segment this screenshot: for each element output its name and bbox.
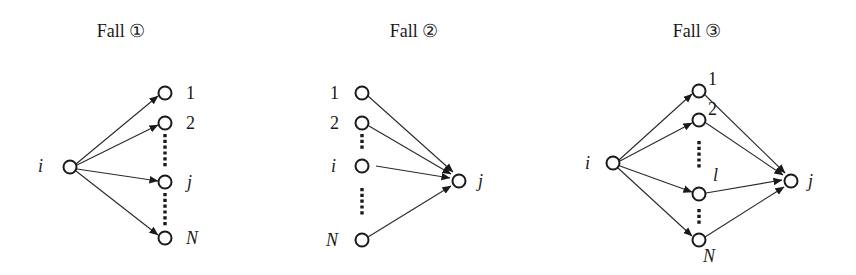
- edges-case-2: [368, 96, 453, 237]
- node-1: [693, 85, 706, 98]
- node-1: [356, 87, 369, 100]
- label-i: i: [585, 153, 590, 173]
- label-N: N: [185, 228, 199, 248]
- network-flow-figure: Fall ① i 1 2 j N Fall ②: [0, 0, 856, 275]
- label-i: i: [331, 156, 336, 176]
- label-2: 2: [186, 113, 195, 133]
- node-1: [159, 87, 172, 100]
- panel-case-2: Fall ② 1 2 i N j: [325, 21, 483, 250]
- node-2: [159, 117, 172, 130]
- panel-case-1: Fall ① i 1 2 j N: [38, 21, 199, 248]
- label-1: 1: [330, 83, 339, 103]
- edge-i-to-N: [76, 171, 158, 235]
- panel-title-case-3: Fall ③: [673, 21, 722, 41]
- node-i: [64, 161, 77, 174]
- node-2: [356, 117, 369, 130]
- node-N: [693, 234, 706, 247]
- label-N: N: [702, 246, 716, 266]
- node-N: [159, 232, 172, 245]
- label-j: j: [185, 172, 192, 192]
- node-i: [356, 160, 369, 173]
- label-1: 1: [186, 83, 195, 103]
- edge-i-to-2: [620, 123, 692, 161]
- label-i: i: [38, 156, 43, 176]
- edge-i-to-j: [77, 169, 158, 181]
- edges-case-3-out: [618, 94, 692, 236]
- node-j: [159, 176, 172, 189]
- edges-case-1: [76, 96, 158, 235]
- edge-N-to-j: [705, 187, 784, 237]
- node-l: [693, 188, 706, 201]
- label-j: j: [806, 171, 813, 191]
- node-i: [607, 157, 620, 170]
- node-N: [356, 234, 369, 247]
- edge-i-to-2: [77, 125, 158, 165]
- label-j: j: [476, 171, 483, 191]
- edge-i-to-l: [620, 166, 692, 192]
- label-N: N: [325, 230, 339, 250]
- label-2: 2: [708, 99, 717, 119]
- panel-title-case-1: Fall ①: [97, 21, 146, 41]
- node-j: [453, 175, 466, 188]
- label-l: l: [713, 165, 718, 185]
- label-2: 2: [330, 113, 339, 133]
- label-1: 1: [708, 69, 717, 89]
- edge-1-to-j: [705, 95, 785, 173]
- panel-case-3: Fall ③ i 1 2 l N j: [585, 21, 813, 266]
- edge-i-to-1: [619, 94, 692, 160]
- edge-1-to-j: [368, 96, 453, 172]
- panel-title-case-2: Fall ②: [390, 21, 439, 41]
- node-j: [785, 175, 798, 188]
- edge-N-to-j: [368, 186, 451, 237]
- edge-i-to-1: [76, 96, 158, 164]
- edge-i-to-j: [376, 166, 450, 178]
- node-2: [693, 114, 706, 127]
